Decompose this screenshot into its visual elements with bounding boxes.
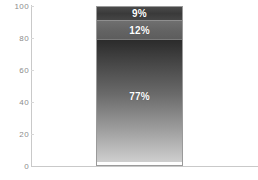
y-axis-line [31,5,32,166]
chart-container: 100 80 60 40 20 0 9% 12% 77% [0,0,258,180]
bar-segment-middle[interactable]: 12% [97,21,182,40]
y-tick-label-0: 0 [3,162,29,171]
x-axis-line [31,166,258,167]
bar-segment-middle-label: 12% [129,25,150,36]
y-tick-label-20: 20 [3,130,29,139]
y-tick-mark-100 [31,6,34,7]
bar-segment-bottom[interactable]: 77% [97,40,182,162]
y-axis-tick-labels: 100 80 60 40 20 0 [0,0,29,180]
y-tick-label-40: 40 [3,98,29,107]
y-tick-label-100: 100 [3,2,29,11]
y-tick-label-80: 80 [3,34,29,43]
y-tick-mark-80 [31,38,34,39]
bar-segment-top-label: 9% [132,8,147,19]
bar-segment-bottom-label: 77% [97,91,182,102]
stacked-bar[interactable]: 9% 12% 77% [96,6,183,166]
bar-segment-top[interactable]: 9% [97,7,182,21]
y-tick-label-60: 60 [3,66,29,75]
y-tick-mark-20 [31,134,34,135]
y-tick-mark-40 [31,102,34,103]
y-tick-mark-60 [31,70,34,71]
